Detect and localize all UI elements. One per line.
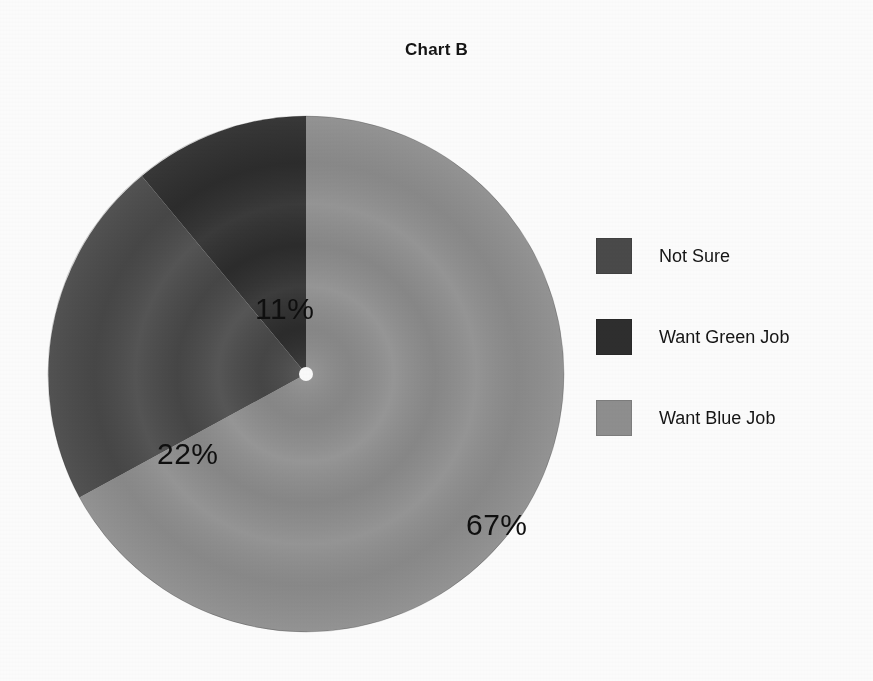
legend-item-want-green-job[interactable]: Want Green Job xyxy=(596,319,856,355)
legend-item-want-blue-job[interactable]: Want Blue Job xyxy=(596,400,856,436)
legend-label-want-green-job: Want Green Job xyxy=(659,327,789,348)
pie-chart[interactable]: 11% 22% 67% xyxy=(44,110,568,638)
chart-page: Chart B xyxy=(0,0,873,681)
legend-label-not-sure: Not Sure xyxy=(659,246,730,267)
pie-center-dot xyxy=(299,367,313,381)
legend-swatch-want-blue-job xyxy=(596,400,632,436)
legend-item-not-sure[interactable]: Not Sure xyxy=(596,238,856,274)
slice-value-not-sure: 22% xyxy=(157,437,219,471)
chart-title: Chart B xyxy=(0,40,873,60)
legend-swatch-not-sure xyxy=(596,238,632,274)
slice-value-want-blue-job: 67% xyxy=(466,508,528,542)
chart-legend: Not Sure Want Green Job Want Blue Job xyxy=(596,238,856,481)
slice-value-want-green-job: 11% xyxy=(255,292,314,326)
legend-swatch-want-green-job xyxy=(596,319,632,355)
legend-label-want-blue-job: Want Blue Job xyxy=(659,408,775,429)
pie-chart-svg xyxy=(44,110,568,638)
